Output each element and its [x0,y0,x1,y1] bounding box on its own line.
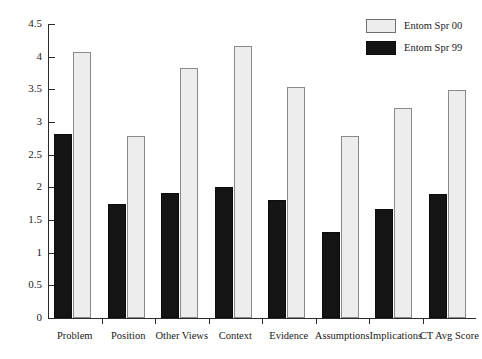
chart-legend: Entom Spr 00 Entom Spr 99 [366,18,482,62]
y-axis-tick-label: 3.5 [0,83,42,94]
x-axis-category-label: Problem [57,330,93,342]
x-axis-separator-tick [155,318,156,324]
bar-entom-spr-00 [73,52,91,318]
x-axis-category-label: Implications [370,330,423,342]
bar-entom-spr-00 [234,46,252,318]
bar-entom-spr-00 [394,108,412,318]
bar-entom-spr-00 [341,136,359,318]
bar-entom-spr-99 [108,204,126,318]
y-axis-tick-label: 0.5 [0,279,42,290]
bar-chart: 00.511.522.533.544.5 ProblemPositionOthe… [0,0,482,359]
y-axis-tick-label: 3 [0,116,42,127]
bar-entom-spr-00 [127,136,145,318]
legend-item: Entom Spr 00 [366,18,482,33]
y-axis-tick-label: 1.5 [0,214,42,225]
x-axis-category-label: Assumptions [315,330,370,342]
x-axis-category-label: Context [219,330,252,342]
legend-label: Entom Spr 00 [404,20,462,32]
y-axis-tick-label: 0 [0,312,42,323]
x-axis-separator-tick [102,318,103,324]
bar-entom-spr-99 [161,193,179,318]
y-axis-tick-label: 1 [0,247,42,258]
legend-label: Entom Spr 99 [404,42,462,54]
bar-entom-spr-99 [215,187,233,318]
x-axis-category-label: Evidence [269,330,308,342]
bar-entom-spr-99 [322,232,340,318]
x-axis-separator-tick [316,318,317,324]
y-axis-tick-label: 4 [0,51,42,62]
bar-entom-spr-99 [268,200,286,318]
bar-entom-spr-99 [429,194,447,318]
y-axis-tick [48,318,55,319]
bar-entom-spr-99 [54,134,72,318]
legend-item: Entom Spr 99 [366,40,482,55]
bar-entom-spr-99 [375,209,393,318]
x-axis-category-label: CT Avg Score [420,330,479,342]
x-axis-category-label: Position [111,330,145,342]
y-axis-tick-label: 4.5 [0,18,42,29]
bar-entom-spr-00 [180,68,198,318]
x-axis-category-label: Other Views [155,330,208,342]
bar-entom-spr-00 [287,87,305,318]
y-axis-tick-label: 2 [0,181,42,192]
x-axis-separator-tick [369,318,370,324]
x-axis-separator-tick [262,318,263,324]
x-axis-separator-tick [423,318,424,324]
y-axis-tick-label: 2.5 [0,149,42,160]
x-axis-separator-tick [209,318,210,324]
bar-entom-spr-00 [448,90,466,318]
bars-layer [48,24,476,318]
legend-swatch-icon [366,41,396,55]
legend-swatch-icon [366,19,396,33]
